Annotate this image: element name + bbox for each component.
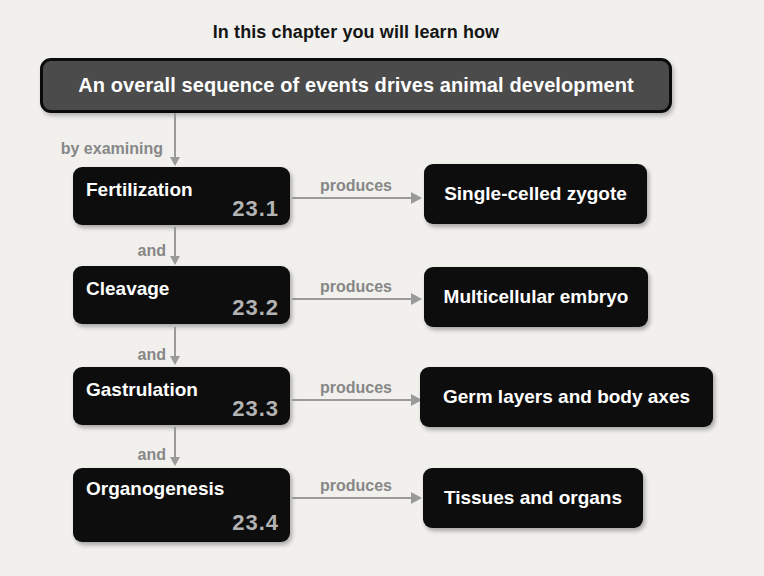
- down-arrow-line: [174, 427, 176, 457]
- down-arrow-head: [170, 157, 180, 166]
- produces-label: produces: [292, 379, 420, 397]
- down-arrow-head: [170, 356, 180, 365]
- section-number: 23.4: [232, 510, 279, 536]
- produces-arrow-line: [292, 497, 411, 499]
- down-arrow-line: [174, 227, 176, 256]
- stage-name: Fertilization: [86, 179, 193, 201]
- produces-connector: produces: [292, 177, 420, 205]
- result-text: Multicellular embryo: [444, 286, 629, 308]
- result-box-germ-layers: Germ layers and body axes: [420, 367, 713, 427]
- section-number: 23.3: [232, 396, 279, 422]
- overview-statement-text: An overall sequence of events drives ani…: [78, 74, 634, 97]
- result-text: Tissues and organs: [444, 487, 622, 509]
- result-box-embryo: Multicellular embryo: [424, 267, 648, 327]
- result-text: Germ layers and body axes: [443, 386, 690, 408]
- produces-label: produces: [292, 477, 420, 495]
- produces-label: produces: [292, 177, 420, 195]
- produces-arrow-line: [292, 399, 411, 401]
- by-examining-label: by examining: [30, 140, 163, 158]
- produces-arrow-line: [292, 197, 411, 199]
- down-arrow-head: [170, 457, 180, 466]
- produces-arrow-head: [411, 293, 422, 305]
- stage-box-gastrulation: Gastrulation 23.3: [73, 367, 290, 425]
- result-text: Single-celled zygote: [444, 183, 627, 205]
- stage-box-organogenesis: Organogenesis 23.4: [73, 468, 290, 542]
- stage-box-cleavage: Cleavage 23.2: [73, 266, 290, 324]
- down-arrow-line: [174, 113, 176, 157]
- produces-connector: produces: [292, 278, 420, 306]
- section-number: 23.2: [232, 295, 279, 321]
- overview-statement-box: An overall sequence of events drives ani…: [40, 58, 672, 113]
- stage-name: Cleavage: [86, 278, 169, 300]
- result-box-zygote: Single-celled zygote: [424, 164, 647, 224]
- produces-connector: produces: [292, 379, 420, 407]
- produces-arrow-head: [411, 492, 422, 504]
- produces-arrow-line: [292, 298, 411, 300]
- produces-arrow-head: [411, 192, 422, 204]
- produces-label: produces: [292, 278, 420, 296]
- chapter-roadmap-diagram: In this chapter you will learn how An ov…: [0, 0, 764, 576]
- down-arrow-head: [170, 256, 180, 265]
- section-number: 23.1: [232, 196, 279, 222]
- produces-connector: produces: [292, 477, 420, 505]
- stage-box-fertilization: Fertilization 23.1: [73, 167, 290, 225]
- stage-name: Gastrulation: [86, 379, 198, 401]
- chapter-lead-in-heading: In this chapter you will learn how: [0, 22, 712, 43]
- stage-name: Organogenesis: [86, 478, 224, 500]
- and-label: and: [96, 346, 166, 364]
- and-label: and: [96, 446, 166, 464]
- result-box-tissues: Tissues and organs: [423, 468, 643, 528]
- down-arrow-line: [174, 327, 176, 356]
- and-label: and: [96, 242, 166, 260]
